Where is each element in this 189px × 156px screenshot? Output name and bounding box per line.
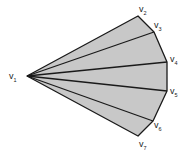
fan-diagram: v1v2v3v4v5v6v7 — [0, 0, 189, 156]
label-v6: v6 — [154, 120, 162, 132]
label-v2: v2 — [139, 4, 147, 16]
label-v7: v7 — [139, 139, 147, 151]
label-v4: v4 — [170, 54, 178, 66]
label-v1: v1 — [9, 71, 17, 83]
label-v5: v5 — [170, 86, 178, 98]
label-v3: v3 — [154, 20, 162, 32]
